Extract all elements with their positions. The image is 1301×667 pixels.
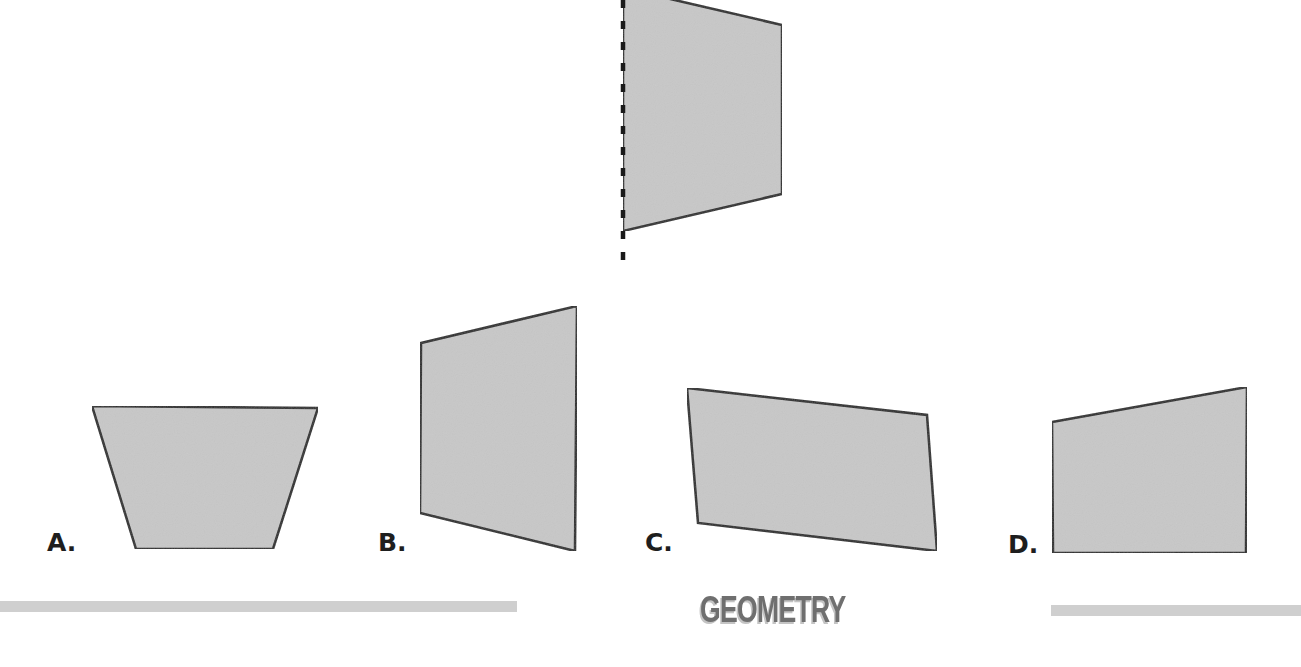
option-label-b: B. <box>378 530 407 555</box>
reference-figure <box>623 0 782 262</box>
figure-canvas <box>0 0 1301 667</box>
option-label-d: D. <box>1008 532 1038 557</box>
option-shape-b <box>420 306 577 551</box>
option-shape-d <box>1052 387 1247 553</box>
option-shape-c <box>687 388 937 551</box>
footer-rule-left <box>0 601 517 612</box>
option-label-c: C. <box>645 530 673 555</box>
section-title: GEOMETRY <box>700 588 822 632</box>
footer-rule-right <box>1051 605 1301 616</box>
option-shape-a <box>92 406 318 549</box>
reference-quadrilateral <box>623 0 782 231</box>
option-label-a: A. <box>47 530 76 555</box>
answer-options <box>92 306 1247 553</box>
